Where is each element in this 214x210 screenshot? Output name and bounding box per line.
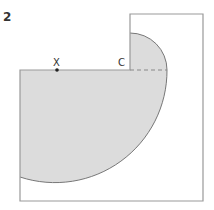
point-x-dot [55, 68, 59, 72]
geometry-diagram: X C 2 [0, 0, 214, 210]
shaded-region [20, 33, 167, 183]
question-number: 2 [3, 10, 11, 24]
point-c-label: C [118, 57, 125, 68]
point-x-label: X [53, 57, 60, 68]
